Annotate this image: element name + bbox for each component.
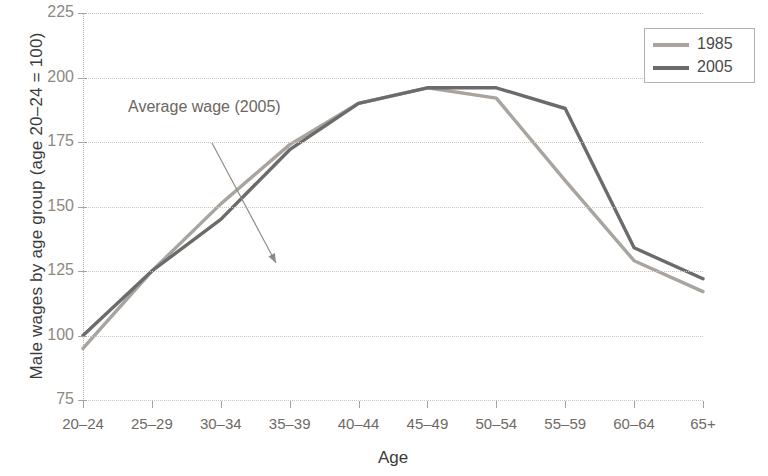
annotation-average-wage-label: Average wage (2005) — [128, 98, 281, 116]
x-tick-mark — [83, 401, 84, 408]
series-line-1985 — [83, 88, 703, 349]
x-tick-mark — [152, 401, 153, 408]
x-tick-label: 60–64 — [613, 415, 655, 432]
x-tick-mark — [221, 401, 222, 408]
x-tick-label: 45–49 — [407, 415, 449, 432]
x-tick-label: 65+ — [690, 415, 715, 432]
y-tick-mark — [78, 271, 87, 272]
x-tick-mark — [565, 401, 566, 408]
plot-area — [83, 13, 703, 400]
y-tick-mark — [78, 207, 87, 208]
legend-swatch-1985 — [653, 43, 689, 47]
x-tick-mark — [496, 401, 497, 408]
y-tick-mark — [78, 336, 87, 337]
gridline — [83, 207, 703, 208]
chart-legend: 1985 2005 — [644, 28, 755, 83]
x-tick-label: 30–34 — [200, 415, 242, 432]
x-tick-mark — [290, 401, 291, 408]
legend-item-1985: 1985 — [653, 34, 749, 56]
gridline — [83, 271, 703, 272]
x-tick-mark — [703, 401, 704, 408]
legend-swatch-2005 — [653, 66, 689, 70]
x-tick-mark — [359, 401, 360, 408]
x-tick-label: 40–44 — [338, 415, 380, 432]
gridline — [83, 13, 703, 14]
y-tick-label: 175 — [28, 133, 74, 149]
series-line-2005 — [83, 88, 703, 336]
gridline — [83, 142, 703, 143]
legend-label-1985: 1985 — [697, 35, 733, 53]
chart-figure: Male wages by age group (age 20–24 = 100… — [0, 0, 768, 476]
x-tick-label: 50–54 — [475, 415, 517, 432]
x-tick-mark — [427, 401, 428, 408]
legend-label-2005: 2005 — [697, 58, 733, 76]
y-tick-mark — [78, 13, 87, 14]
y-axis-tick-labels: 75100125150175200225 — [0, 0, 74, 476]
x-tick-label: 25–29 — [131, 415, 173, 432]
gridline — [83, 336, 703, 337]
y-tick-mark — [78, 142, 87, 143]
gridline — [83, 400, 703, 401]
y-tick-mark — [78, 78, 87, 79]
gridline — [83, 78, 703, 79]
x-axis-title: Age — [83, 448, 703, 468]
x-axis-tick-labels: 20–2425–2930–3435–3940–4445–4950–5455–59… — [0, 415, 768, 439]
y-tick-label: 200 — [28, 69, 74, 85]
legend-item-2005: 2005 — [653, 57, 749, 79]
y-tick-label: 125 — [28, 262, 74, 278]
x-tick-label: 20–24 — [62, 415, 104, 432]
x-tick-label: 35–39 — [269, 415, 311, 432]
y-tick-label: 150 — [28, 198, 74, 214]
y-tick-label: 225 — [28, 4, 74, 20]
x-tick-mark — [634, 401, 635, 408]
y-tick-label: 75 — [28, 391, 74, 407]
x-tick-label: 55–59 — [544, 415, 586, 432]
y-tick-label: 100 — [28, 327, 74, 343]
